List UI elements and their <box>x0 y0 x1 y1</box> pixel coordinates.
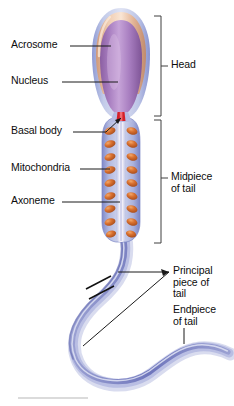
label-midpiece: Midpiece of tail <box>171 171 233 194</box>
sperm-diagram: Acrosome Nucleus Basal body Mitochondria… <box>0 0 234 406</box>
label-principal-line2: piece of <box>173 276 209 288</box>
mitochondria-left-column <box>104 126 117 239</box>
label-nucleus: Nucleus <box>11 75 48 87</box>
bracket-head <box>154 16 161 116</box>
label-midpiece-line1: Midpiece <box>171 170 212 182</box>
label-endpiece-line2: of tail <box>173 315 197 327</box>
bracket-midpiece <box>154 120 161 243</box>
label-principal-piece: Principal piece of tail <box>173 265 233 300</box>
label-endpiece-line1: Endpiece <box>173 303 216 315</box>
head-group <box>92 8 150 119</box>
label-principal-line1: Principal <box>173 264 212 276</box>
label-endpiece: Endpiece of tail <box>173 304 233 327</box>
basal-body-core <box>120 112 123 121</box>
label-mitochondria: Mitochondria <box>11 162 70 174</box>
mitochondria-right-column <box>125 126 138 239</box>
region-brackets <box>154 16 168 243</box>
label-head: Head <box>171 59 196 71</box>
midpiece-group <box>102 118 140 242</box>
label-basal-body: Basal body <box>11 125 62 137</box>
label-principal-line3: tail <box>173 287 186 299</box>
label-midpiece-line2: of tail <box>171 182 195 194</box>
label-axoneme: Axoneme <box>11 195 55 207</box>
label-acrosome: Acrosome <box>11 39 57 51</box>
